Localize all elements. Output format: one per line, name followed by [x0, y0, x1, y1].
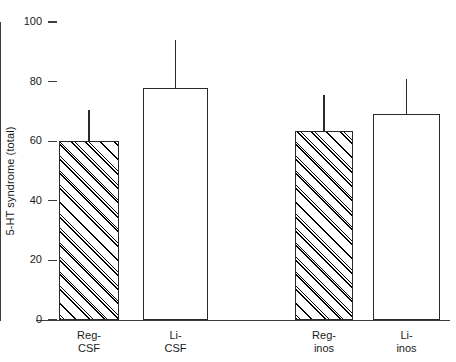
- x-tick-label: Li- CSF: [123, 329, 228, 355]
- y-axis-title: 5-HT syndrome (total): [0, 0, 20, 362]
- x-axis-line: [36, 320, 450, 321]
- error-bar-reg-csf: [88, 110, 89, 141]
- y-tick-mark: [48, 21, 57, 22]
- x-tick-label: Li- inos: [353, 329, 456, 355]
- y-tick-label: 0: [6, 314, 42, 325]
- error-bar-li-csf: [175, 40, 176, 88]
- y-tick-mark: [48, 81, 57, 82]
- y-tick-mark: [48, 319, 57, 320]
- y-tick-mark: [48, 141, 57, 142]
- y-tick-label: 60: [6, 135, 42, 146]
- y-tick-label: 100: [6, 16, 42, 27]
- bar-reg-csf: [59, 141, 119, 320]
- bar-li-inos: [373, 114, 440, 320]
- error-bar-li-inos: [406, 79, 407, 115]
- bar-li-csf: [143, 88, 208, 320]
- error-bar-reg-inos: [323, 95, 324, 131]
- y-tick-label: 80: [6, 76, 42, 87]
- y-tick-label: 40: [6, 195, 42, 206]
- chart-figure: 5-HT syndrome (total) 020406080100 Reg- …: [0, 0, 456, 362]
- plot-area: [58, 22, 450, 320]
- bar-reg-inos: [295, 131, 353, 320]
- y-tick-mark: [48, 260, 57, 261]
- y-tick-mark: [48, 200, 57, 201]
- y-tick-label: 20: [6, 254, 42, 265]
- y-axis-line: [0, 22, 1, 321]
